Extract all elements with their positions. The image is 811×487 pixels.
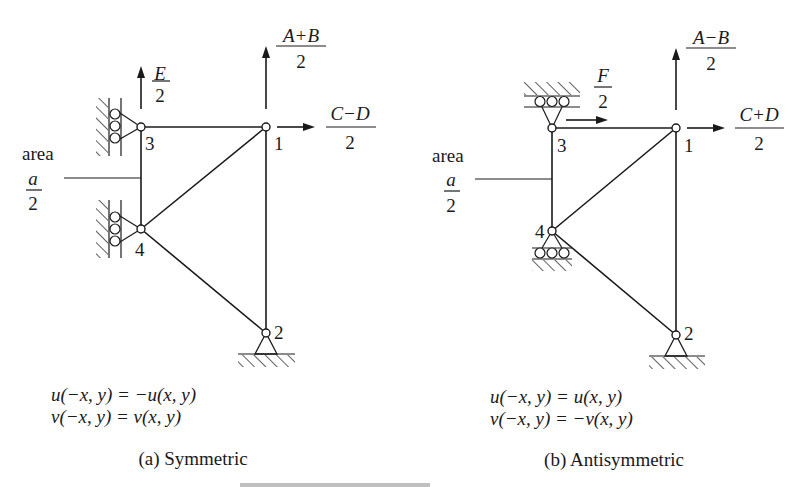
node-label-4: 4 — [135, 239, 145, 260]
node-1 — [672, 124, 680, 132]
antisymmetry-equation-v: v(−x, y) = −v(x, y) — [490, 408, 633, 430]
panel-symmetric: area a 2 — [22, 25, 376, 470]
node-4 — [548, 227, 556, 235]
wall-hatch-icon — [96, 98, 108, 156]
area-numerator: a — [28, 168, 38, 189]
arrow-right-icon — [303, 123, 315, 131]
arrow-up-icon — [137, 66, 145, 78]
node-2 — [262, 329, 270, 337]
load-arrow-node-1-horizontal: C−D 2 — [277, 103, 376, 153]
node-3 — [137, 123, 145, 131]
area-denominator: 2 — [28, 193, 38, 214]
ground-hatch-icon — [649, 357, 705, 369]
node-label-4: 4 — [535, 221, 545, 242]
panel-caption: (a) Symmetric — [138, 448, 247, 470]
panel-antisymmetric: area a 2 — [432, 27, 784, 471]
svg-text:C−D: C−D — [330, 103, 369, 124]
node-label-1: 1 — [274, 133, 284, 154]
svg-text:A−B: A−B — [691, 27, 729, 48]
panel-caption: (b) Antisymmetric — [544, 449, 684, 471]
roller-support-node-3 — [524, 82, 580, 128]
load-arrow-node-1-vertical: A−B 2 — [672, 27, 736, 110]
wall-hatch-icon — [96, 200, 108, 258]
node-3 — [548, 124, 556, 132]
antisymmetry-equation-u: u(−x, y) = u(x, y) — [490, 386, 622, 408]
svg-text:2: 2 — [754, 133, 764, 154]
area-label: area — [432, 145, 464, 166]
svg-text:C+D: C+D — [739, 104, 778, 125]
svg-text:2: 2 — [296, 51, 306, 72]
member-4-2 — [552, 231, 676, 335]
svg-text:2: 2 — [155, 85, 165, 106]
symmetry-equation-u: u(−x, y) = −u(x, y) — [51, 384, 196, 406]
svg-text:F: F — [596, 65, 609, 86]
ground-hatch-icon — [532, 260, 572, 271]
truss-members — [552, 128, 676, 335]
svg-text:a: a — [446, 169, 456, 190]
symmetry-equation-v: v(−x, y) = v(x, y) — [51, 406, 181, 428]
arrow-right-icon — [713, 124, 725, 132]
member-4-1 — [141, 127, 266, 229]
svg-text:A+B: A+B — [281, 25, 319, 46]
truss-symmetry-figure: area a 2 — [0, 0, 811, 487]
svg-text:2: 2 — [446, 195, 456, 216]
member-4-1 — [552, 128, 676, 231]
load-arrow-node-1-vertical: A+B 2 — [262, 25, 326, 109]
arrow-up-icon — [262, 46, 270, 58]
cut-off-figure-caption — [240, 483, 430, 487]
area-fraction: a 2 — [26, 168, 42, 214]
node-label-2: 2 — [274, 322, 284, 343]
load-arrow-node-1-horizontal: C+D 2 — [687, 104, 784, 154]
arrow-right-icon — [596, 116, 608, 124]
node-2 — [672, 331, 680, 339]
pin-support-node-2 — [238, 333, 295, 367]
node-label-1: 1 — [684, 135, 694, 156]
load-arrow-node-3-vertical: E 2 — [137, 63, 170, 109]
member-4-2 — [141, 229, 266, 333]
pin-support-node-2 — [649, 335, 705, 369]
node-label-3: 3 — [145, 133, 155, 154]
ceiling-hatch-icon — [524, 82, 580, 95]
node-label-2: 2 — [684, 323, 694, 344]
area-fraction: a 2 — [444, 169, 460, 216]
ground-hatch-icon — [238, 355, 295, 367]
node-label-3: 3 — [557, 135, 567, 156]
node-4 — [137, 225, 145, 233]
roller-support-node-3 — [96, 98, 141, 156]
svg-text:2: 2 — [345, 132, 355, 153]
node-1 — [262, 123, 270, 131]
area-label: area — [22, 143, 54, 164]
arrow-up-icon — [672, 48, 680, 60]
truss-members — [141, 127, 266, 333]
svg-text:2: 2 — [706, 53, 716, 74]
svg-text:2: 2 — [598, 91, 608, 112]
